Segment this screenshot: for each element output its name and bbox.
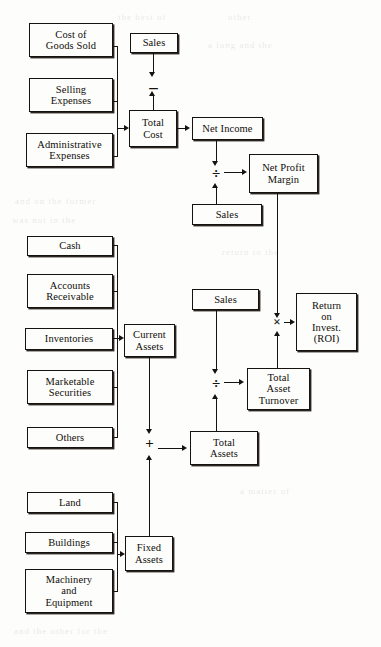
ghost-text: and on the former [15, 196, 96, 206]
arrowhead-current-assets-down [146, 429, 152, 434]
connector-plus-to-total-assets [158, 448, 183, 449]
node-return-on-investment[interactable]: Return on Invest. (ROI) [296, 293, 357, 351]
arrowhead-sales-up-margin [212, 183, 218, 188]
arrowhead-fixed-assets-up [146, 455, 152, 460]
connector-total-assets-to-divide [216, 399, 217, 431]
arrowhead-sales-down [149, 72, 155, 77]
operator-multiply: × [270, 315, 284, 328]
node-cash[interactable]: Cash [27, 236, 113, 256]
connector-divide-to-turnover [224, 382, 240, 383]
connector-current-assets-bracket [117, 245, 118, 438]
node-current-assets[interactable]: Current Assets [124, 324, 175, 357]
arrowhead-total-assets-up [212, 394, 218, 399]
node-buildings[interactable]: Buildings [25, 532, 113, 553]
connector-fixed-assets-to-plus [149, 459, 150, 537]
node-others[interactable]: Others [27, 427, 113, 448]
arrowhead-to-total-assets [182, 445, 187, 451]
node-net-profit-margin[interactable]: Net Profit Margin [249, 154, 318, 193]
operator-add-assets: + [143, 436, 156, 451]
connector-total-cost-to-minus [153, 95, 154, 110]
node-net-income[interactable]: Net Income [192, 117, 263, 140]
connector-sales-to-minus [153, 53, 154, 73]
ghost-text: return to the [222, 247, 279, 257]
ghost-text: other [228, 12, 252, 22]
node-accounts-receivable[interactable]: Accounts Receivable [27, 274, 113, 308]
node-fixed-assets[interactable]: Fixed Assets [125, 536, 173, 571]
connector-fixed-assets-bracket [117, 502, 118, 592]
ghost-text: a matter of [240, 486, 290, 496]
node-total-asset-turnover[interactable]: Total Asset Turnover [247, 368, 310, 410]
connector-sales-to-divide-turnover [216, 310, 217, 370]
connector-net-income-to-divide [216, 140, 217, 162]
arrowhead-to-net-profit-margin [242, 169, 247, 175]
node-total-assets[interactable]: Total Assets [190, 431, 258, 465]
arrowhead-total-cost-up [149, 91, 155, 96]
node-machinery-and-equipment[interactable]: Machinery and Equipment [25, 569, 113, 613]
connector-turnover-to-multiply [277, 336, 278, 368]
node-sales-turnover[interactable]: Sales [192, 289, 259, 310]
node-sales-top[interactable]: Sales [130, 33, 178, 53]
ghost-text: the best of [118, 12, 167, 22]
connector-current-assets-to-plus [149, 357, 150, 430]
node-total-cost[interactable]: Total Cost [129, 110, 177, 147]
ghost-text: a long and the [208, 40, 273, 50]
arrowhead-to-roi [290, 319, 295, 325]
ghost-text: was not in the [12, 215, 76, 225]
node-administrative-expenses[interactable]: Administrative Expenses [26, 133, 113, 167]
arrowhead-to-net-income [185, 125, 190, 131]
ghost-text: and the other for the [14, 626, 108, 636]
diagram-canvas: the best of other a long and the and on … [0, 0, 381, 647]
connector-expense-bracket [117, 46, 118, 157]
arrowhead-to-total-asset-turnover [239, 379, 244, 385]
operator-divide-turnover: ÷ [210, 376, 222, 391]
connector-divide-to-margin [224, 172, 243, 173]
node-selling-expenses[interactable]: Selling Expenses [29, 78, 113, 112]
node-cost-of-goods-sold[interactable]: Cost of Goods Sold [29, 23, 113, 57]
arrowhead-turnover-up [274, 331, 280, 336]
connector-margin-to-multiply [277, 193, 278, 315]
operator-divide-margin: ÷ [210, 166, 222, 181]
node-land[interactable]: Land [27, 492, 113, 513]
node-inventories[interactable]: Inventories [25, 328, 113, 350]
node-sales-margin[interactable]: Sales [192, 204, 262, 225]
node-marketable-securities[interactable]: Marketable Securities [27, 370, 113, 404]
arrowhead-sales-down-turnover [212, 369, 218, 374]
connector-sales-to-divide-margin [216, 188, 217, 204]
